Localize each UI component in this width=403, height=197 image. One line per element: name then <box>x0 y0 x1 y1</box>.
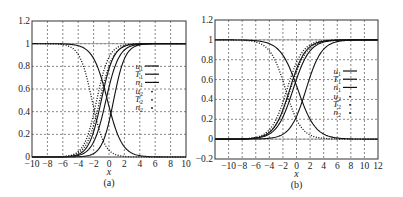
series-u1 <box>32 44 186 157</box>
x-tick-label: 10 <box>360 161 370 171</box>
x-tick-label: 4 <box>137 159 142 169</box>
x-tick-label: 10 <box>181 159 191 169</box>
series-n2 <box>32 44 186 157</box>
y-tick-label: 0.2 <box>18 129 30 139</box>
y-tick-label: 1.2 <box>18 16 30 26</box>
x-tick-labels: −10−8−6−4−2024681012 <box>221 161 383 171</box>
x-axis-label: x <box>106 166 112 177</box>
y-tick-label: 0.8 <box>18 61 30 71</box>
y-tick-label: 0.2 <box>201 114 213 124</box>
x-tick-label: −10 <box>25 159 40 169</box>
y-tick-label: 0.4 <box>18 107 30 117</box>
x-tick-label: 8 <box>348 161 353 171</box>
series-T2 <box>32 44 186 157</box>
y-tick-label: 0.8 <box>201 55 213 65</box>
x-tick-label: 6 <box>153 159 158 169</box>
y-tick-labels: −0.200.20.40.60.811.2 <box>196 15 213 164</box>
panel-b-chart: −0.200.20.40.60.811.2−10−8−6−4−202468101… <box>196 15 383 191</box>
panel-caption: (a) <box>103 177 114 189</box>
x-tick-label: 8 <box>168 159 173 169</box>
panel-caption: (b) <box>291 179 303 191</box>
grid <box>215 20 378 159</box>
x-tick-label: −10 <box>221 161 236 171</box>
curves <box>32 44 186 157</box>
y-tick-label: 0.6 <box>201 75 213 85</box>
legend-swatch-dot <box>151 107 153 109</box>
figure: 00.20.40.60.811.2−10−8−6−4−20246810x(a)u… <box>0 0 403 197</box>
legend-swatch-dot <box>349 96 351 98</box>
y-tick-label: 0.4 <box>201 94 213 104</box>
x-tick-label: 6 <box>335 161 340 171</box>
y-tick-label: 1 <box>25 39 30 49</box>
x-tick-label: −6 <box>58 159 68 169</box>
x-tick-label: 12 <box>373 161 383 171</box>
y-tick-labels: 00.20.40.60.811.2 <box>18 16 30 162</box>
legend-swatch-dot <box>349 104 351 106</box>
legend-swatch-dot <box>151 99 153 101</box>
series-u2 <box>32 44 186 157</box>
series-n1 <box>32 44 186 157</box>
x-tick-label: −4 <box>264 161 274 171</box>
y-tick-label: 0 <box>208 134 213 144</box>
x-tick-label: −6 <box>251 161 261 171</box>
legend-swatch-dot <box>151 91 153 93</box>
x-tick-label: −2 <box>89 159 99 169</box>
series-T1 <box>32 44 186 157</box>
legend: u1T1n1u2T2n2 <box>333 66 357 118</box>
x-tick-label: −4 <box>73 159 83 169</box>
y-tick-label: 1.2 <box>201 15 213 25</box>
x-axis-label: x <box>293 168 299 179</box>
series-u1outer <box>32 44 186 157</box>
x-tick-label: −8 <box>237 161 247 171</box>
x-tick-label: −2 <box>278 161 288 171</box>
x-tick-label: 2 <box>308 161 313 171</box>
legend-swatch-dot <box>349 112 351 114</box>
panel-a-chart: 00.20.40.60.811.2−10−8−6−4−20246810x(a)u… <box>18 16 191 189</box>
x-tick-label: −8 <box>42 159 52 169</box>
y-tick-label: 0.6 <box>18 84 30 94</box>
y-tick-label: 1 <box>208 35 213 45</box>
x-tick-label: 4 <box>321 161 326 171</box>
y-tick-label: −0.2 <box>196 154 213 164</box>
x-tick-label: 2 <box>122 159 127 169</box>
